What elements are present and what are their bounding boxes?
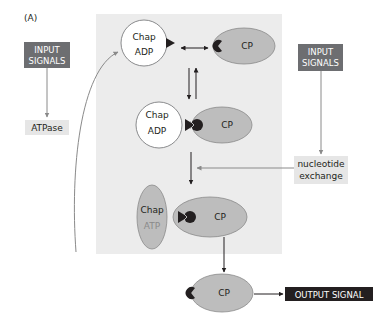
nucleotide-exchange-line1: nucleotide [297,159,345,169]
state3-chap-text: Chap [140,205,164,215]
state1-cp-text: CP [241,41,253,51]
panel-label: (A) [24,13,37,23]
state2-cp-text: CP [221,120,233,130]
nucleotide-exchange-line2: exchange [299,171,343,181]
chaperone-cycle-diagram: (A) INPUT SIGNALS ATPase Chap ADP CP CP … [0,0,391,329]
atpase-label-box: ATPase [25,120,69,135]
state3-chap-atp: Chap ATP [137,185,167,249]
right-input-signals-box: INPUT SIGNALS [298,44,343,71]
state2-adp-text: ADP [148,126,167,136]
output-signal-text: OUTPUT SIGNAL [295,290,364,300]
state3-atp-text: ATP [144,221,161,231]
state2-binding-complex-icon [185,119,203,131]
state3-cp-text: CP [214,212,226,222]
state2-chap-adp: Chap ADP [136,102,182,148]
nucleotide-exchange-box: nucleotide exchange [294,156,348,184]
state1-adp-text: ADP [135,47,154,57]
right-input-line1: INPUT [308,47,334,57]
state1-chap-text: Chap [132,32,156,42]
output-signal-box: OUTPUT SIGNAL [285,287,373,301]
state3-binding-complex-icon [178,211,196,223]
released-cp-text: CP [218,288,230,298]
right-input-line2: SIGNALS [302,58,339,68]
state1-cp: CP [213,28,275,64]
atpase-label: ATPase [31,123,63,133]
released-cp: CP [186,274,253,312]
left-input-line2: SIGNALS [29,56,66,66]
left-input-signals-box: INPUT SIGNALS [24,42,70,68]
state2-chap-text: Chap [145,110,169,120]
left-input-line1: INPUT [34,45,60,55]
